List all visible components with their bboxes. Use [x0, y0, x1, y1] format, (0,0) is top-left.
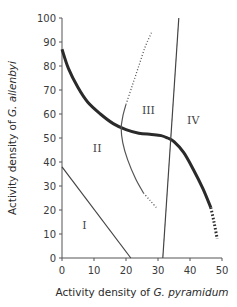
x-tick-label: 30 — [152, 265, 165, 276]
y-tick-label: 60 — [43, 109, 56, 120]
y-tick-label: 30 — [43, 181, 56, 192]
x-tick-label: 50 — [216, 265, 229, 276]
y-tick-label: 90 — [43, 37, 56, 48]
region-labels: IIIIIIIV — [82, 104, 200, 232]
y-tick-label: 80 — [43, 61, 56, 72]
chart: 010203040500102030405060708090100 IIIIII… — [0, 0, 237, 307]
axes: 010203040500102030405060708090100 — [37, 13, 228, 277]
y-axis-label: Activity density of G. allenbyi — [6, 61, 18, 215]
x-tick-label: 0 — [59, 265, 65, 276]
x-tick-label: 20 — [120, 265, 133, 276]
series-thin-curve-dotted-lower — [144, 193, 157, 207]
x-tick-label: 10 — [88, 265, 101, 276]
region-label-II: II — [93, 142, 102, 155]
y-tick-label: 70 — [43, 85, 56, 96]
y-tick-label: 10 — [43, 229, 56, 240]
y-tick-label: 0 — [50, 253, 56, 264]
series-isocline-thick-dotted — [211, 208, 217, 239]
x-axis-label: Activity density of G. pyramidum — [55, 286, 228, 298]
region-label-I: I — [82, 219, 86, 232]
series-boundary-I-II — [62, 167, 131, 258]
y-tick-label: 100 — [37, 13, 56, 24]
y-tick-label: 20 — [43, 205, 56, 216]
y-tick-label: 40 — [43, 157, 56, 168]
y-tick-label: 50 — [43, 133, 56, 144]
region-label-IV: IV — [187, 114, 200, 127]
x-tick-label: 40 — [184, 265, 197, 276]
series-thin-curve-dotted-upper — [126, 32, 152, 104]
series-thin-curve-solid — [121, 104, 143, 193]
region-label-III: III — [142, 104, 155, 117]
